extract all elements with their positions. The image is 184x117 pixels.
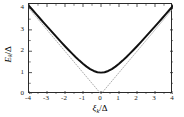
series-path-2 [101,8,173,94]
series-path-0 [29,6,173,73]
plot-svg [29,4,173,94]
x-tick-label: -4 [25,95,31,102]
x-axis-title-tail: /Δ [99,103,107,113]
y-tick-label: 4 [21,4,25,11]
x-tick-label: 1 [116,95,120,102]
x-tick-label: 0 [98,95,102,102]
x-axis-title: ξk/Δ [28,103,172,116]
x-tick-label: 2 [134,95,138,102]
x-tick-label: -3 [43,95,49,102]
y-tick-label: 2 [21,47,25,54]
x-tick-label: -2 [61,95,67,102]
y-axis-title-subscript: k [7,54,13,57]
tick-marks [29,4,173,94]
y-axis-title-symbol: E [3,57,13,63]
y-axis-title: Ek/Δ [3,24,16,84]
x-tick-label: -1 [79,95,85,102]
y-tick-label: 0 [21,90,25,97]
plot-area [28,3,172,93]
y-tick-label: 3 [21,25,25,32]
series-path-1 [29,8,101,94]
y-axis-title-tail: /Δ [3,46,13,54]
y-tick-label: 1 [21,68,25,75]
x-tick-label: 4 [170,95,174,102]
figure-canvas: 01234 Ek/Δ -4-3-2-101234 ξk/Δ [0,0,184,117]
x-tick-label: 3 [152,95,156,102]
